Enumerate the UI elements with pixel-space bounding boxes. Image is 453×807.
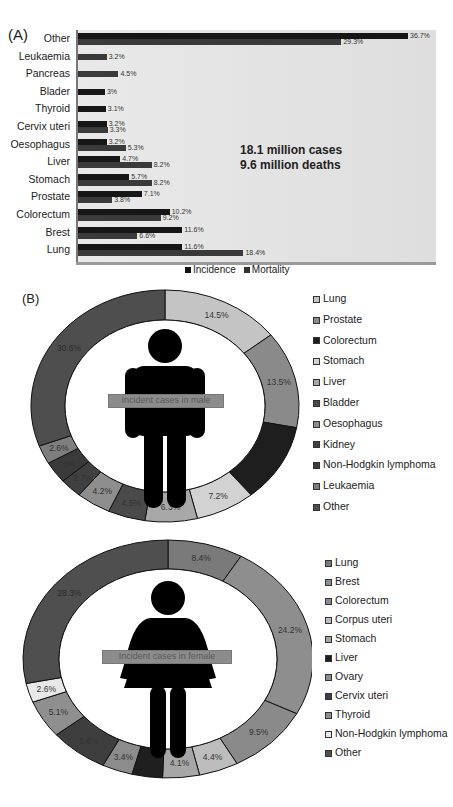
bar-incidence (78, 106, 106, 112)
legend-label: Non-Hodgkin lymphoma (335, 727, 448, 739)
legend-item-brest: Brest (325, 575, 360, 587)
legend-item-other: Other (313, 500, 349, 512)
legend-label: Kidney (323, 438, 355, 450)
donut-value-label: 24.2% (278, 625, 303, 635)
legend-swatch (325, 693, 332, 700)
bar-mortality (78, 71, 118, 77)
legend-swatch (325, 731, 332, 738)
legend-item-bladder: Bladder (313, 396, 359, 408)
legend-swatch (325, 674, 332, 681)
bar-mortality (78, 233, 137, 239)
category-label: Colorectum (0, 208, 70, 220)
bar-value-label: 6.6% (139, 232, 155, 239)
legend-swatch-mortality (244, 267, 250, 273)
bar-value-label: 4.7% (122, 155, 138, 162)
donut-value-label: 7.2% (208, 491, 228, 501)
legend-swatch (313, 421, 320, 428)
legend-item-non-hodgkin-lymphoma: Non-Hodgkin lymphoma (313, 458, 436, 470)
bar-value-label: 5.7% (131, 173, 147, 180)
legend-item-incidence: Incidence (185, 264, 236, 275)
male-legend: LungProstateColorectumStomachLiverBladde… (313, 292, 453, 522)
legend-label-mortality: Mortality (252, 264, 290, 275)
legend-item-liver: Liver (313, 375, 346, 387)
legend-swatch (325, 655, 332, 662)
category-label: Liver (0, 155, 70, 167)
legend-swatch (325, 712, 332, 719)
legend-a: Incidence Mortality (185, 264, 290, 275)
legend-swatch (313, 462, 320, 469)
bar-value-label: 7.1% (144, 190, 160, 197)
bar-value-label: 11.6% (184, 243, 203, 250)
bar-mortality (78, 250, 243, 256)
category-label: Lung (0, 243, 70, 255)
donut-value-label: 4.1% (170, 758, 190, 768)
bar-value-label: 9.2% (163, 214, 179, 221)
legend-item-colorectum: Colorectum (313, 334, 377, 346)
legend-swatch-incidence (185, 267, 191, 273)
male-center-label: Incident cases in male (108, 394, 224, 408)
legend-label: Leukaemia (323, 479, 374, 491)
legend-label: Prostate (323, 313, 362, 325)
legend-swatch (313, 379, 320, 386)
category-label: Brest (0, 226, 70, 238)
bar-value-label: 3.8% (114, 196, 130, 203)
bar-value-label: 3.1% (108, 105, 124, 112)
annotation-deaths: 9.6 million deaths (240, 158, 341, 172)
donut-value-label: 3.4% (114, 752, 134, 762)
legend-swatch (325, 617, 332, 624)
legend-swatch (313, 358, 320, 365)
female-legend: LungBrestColorectumCorpus uteriStomachLi… (325, 556, 453, 756)
legend-item-stomach: Stomach (313, 354, 364, 366)
legend-swatch (325, 598, 332, 605)
legend-label: Colorectum (323, 334, 377, 346)
legend-label: Brest (335, 575, 360, 587)
bar-mortality (78, 54, 107, 60)
bar-value-label: 5.3% (128, 144, 144, 151)
bar-value-label: 3% (107, 88, 117, 95)
legend-swatch (313, 504, 320, 511)
legend-swatch (313, 317, 320, 324)
category-label: Stomach (0, 173, 70, 185)
legend-item-oesophagus: Oesophagus (313, 417, 383, 429)
legend-item-liver: Liver (325, 651, 358, 663)
legend-label: Non-Hodgkin lymphoma (323, 458, 436, 470)
category-label: Prostate (0, 190, 70, 202)
donut-value-label: 2.6% (37, 684, 57, 694)
bar-value-label: 36.7% (410, 32, 430, 39)
legend-item-non-hodgkin-lymphoma: Non-Hodgkin lymphoma (325, 727, 448, 739)
donut-value-label: 13.5% (267, 377, 292, 387)
legend-label: Corpus uteri (335, 613, 392, 625)
bar-value-label: 3.3% (110, 126, 126, 133)
bar-mortality (78, 215, 161, 221)
bar-mortality (78, 145, 126, 151)
legend-label: Stomach (335, 632, 376, 644)
category-label: Other (0, 32, 70, 44)
panel-a-bar-chart: (A) Other36.7%29.3%Leukaemia3.2%Pancreas… (0, 0, 453, 280)
legend-label: Liver (323, 375, 346, 387)
legend-item-prostate: Prostate (313, 313, 362, 325)
bar-value-label: 4.5% (120, 70, 136, 77)
bar-mortality (78, 162, 152, 168)
donut-value-label: 6.6% (79, 736, 99, 746)
legend-item-cervix-uteri: Cervix uteri (325, 689, 388, 701)
bar-value-label: 29.3% (343, 38, 363, 45)
legend-label: Ovary (335, 670, 363, 682)
bar-mortality (78, 180, 152, 186)
legend-swatch (313, 337, 320, 344)
donut-value-label: 2.6% (49, 443, 69, 453)
annotation-cases: 18.1 million cases (240, 143, 342, 157)
legend-swatch (313, 483, 320, 490)
donut-value-label: 4.5% (122, 498, 142, 508)
legend-swatch (325, 636, 332, 643)
legend-item-mortality: Mortality (244, 264, 290, 275)
category-label: Leukaemia (0, 50, 70, 62)
category-label: Cervix uteri (0, 120, 70, 132)
legend-swatch (325, 579, 332, 586)
category-label: Pancreas (0, 67, 70, 79)
legend-swatch (313, 400, 320, 407)
bar-mortality (78, 39, 341, 45)
legend-swatch (313, 441, 320, 448)
donut-value-label: 5.1% (49, 707, 69, 717)
category-label: Thyroid (0, 102, 70, 114)
legend-item-lung: Lung (313, 292, 346, 304)
